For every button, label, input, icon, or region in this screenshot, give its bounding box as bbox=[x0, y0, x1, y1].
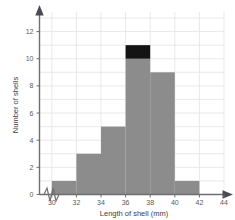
x-tick-label: 44 bbox=[220, 199, 228, 206]
x-tick-label: 40 bbox=[171, 199, 179, 206]
histogram-bar-highlight bbox=[126, 45, 151, 59]
histogram-bar bbox=[150, 72, 175, 194]
y-axis-title: Number of shells bbox=[11, 77, 20, 134]
histogram-bar bbox=[101, 127, 126, 195]
chart-canvas: 3032343638404244 024681012 Length of she… bbox=[0, 0, 235, 220]
y-tick-label: 8 bbox=[30, 82, 34, 89]
y-tick-label: 0 bbox=[30, 191, 34, 198]
x-tick-label: 30 bbox=[48, 199, 56, 206]
x-tick-label: 32 bbox=[73, 199, 81, 206]
y-tick-label: 6 bbox=[30, 110, 34, 117]
histogram-bar bbox=[126, 59, 151, 195]
x-axis-title: Length of shell (mm) bbox=[100, 209, 169, 218]
x-tick-label: 36 bbox=[122, 199, 130, 206]
y-tick-label: 2 bbox=[30, 164, 34, 171]
histogram-bar bbox=[76, 154, 101, 195]
y-tick-label: 10 bbox=[26, 55, 34, 62]
y-tick-group: 024681012 bbox=[26, 28, 40, 198]
x-tick-group: 3032343638404244 bbox=[48, 195, 228, 206]
histogram-bar bbox=[175, 181, 200, 195]
y-tick-label: 12 bbox=[26, 28, 34, 35]
y-axis-arrowhead bbox=[35, 5, 43, 16]
x-tick-label: 34 bbox=[97, 199, 105, 206]
x-tick-label: 42 bbox=[196, 199, 204, 206]
x-tick-label: 38 bbox=[146, 199, 154, 206]
histogram-bar bbox=[52, 181, 77, 195]
bars-layer bbox=[52, 45, 200, 194]
histogram-chart: 3032343638404244 024681012 Length of she… bbox=[0, 0, 235, 220]
y-tick-label: 4 bbox=[30, 137, 34, 144]
